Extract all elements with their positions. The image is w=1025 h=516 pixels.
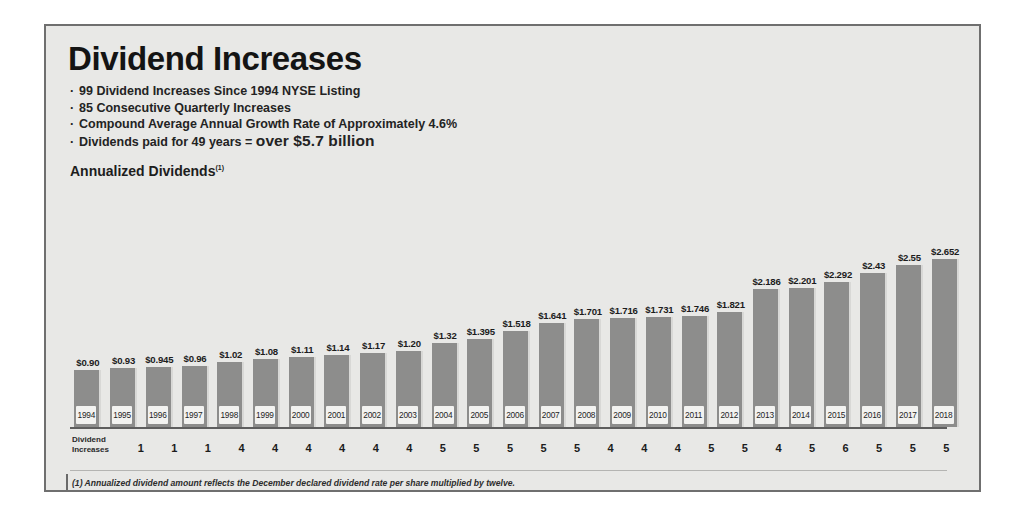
- bar-column: $2.432016: [856, 212, 892, 427]
- bar: 2002: [360, 353, 387, 427]
- bar: 2011: [682, 316, 709, 427]
- bar-value-label: $1.08: [255, 346, 278, 357]
- dividend-increase-value: 4: [627, 442, 661, 454]
- dividend-increase-value: 5: [896, 442, 930, 454]
- bar-year-label: 2007: [541, 406, 561, 424]
- bar-column: $1.6412007: [534, 212, 570, 427]
- bar-column: $1.322004: [427, 212, 463, 427]
- bar-column: $1.202003: [391, 212, 427, 427]
- chart-section-label-text: Annualized Dividends: [70, 163, 215, 179]
- list-item: ·Compound Average Annual Growth Rate of …: [70, 116, 965, 133]
- bar-column: $2.552017: [892, 212, 928, 427]
- dividend-increase-value: 4: [393, 442, 427, 454]
- bullet-dot: ·: [70, 116, 79, 133]
- dividend-increase-value: 5: [493, 442, 527, 454]
- bar-value-label: $1.716: [610, 305, 638, 316]
- bar: 1996: [146, 367, 173, 427]
- dividend-increase-value: 4: [359, 442, 393, 454]
- bar-column: $1.7162009: [606, 212, 642, 427]
- bar-value-label: $1.02: [219, 349, 242, 360]
- bar-year-label: 2018: [934, 406, 954, 424]
- bar: 1997: [182, 366, 209, 427]
- dividend-increase-value: 5: [795, 442, 829, 454]
- bar-value-label: $2.186: [752, 276, 780, 287]
- bar-column: $1.7012008: [570, 212, 606, 427]
- dividend-increases-row: Dividend Increases 111444444555554445545…: [70, 434, 963, 462]
- bullet-text: Dividends paid for 49 years =: [79, 135, 256, 149]
- bar-year-label: 2005: [469, 406, 489, 424]
- bar: 2009: [610, 318, 637, 427]
- bar: 2018: [932, 259, 959, 427]
- footnote-text: (1) Annualized dividend amount reflects …: [72, 478, 955, 488]
- bar-column: $1.5182006: [499, 212, 535, 427]
- bar-value-label: $1.746: [681, 303, 709, 314]
- bar-value-label: $1.32: [434, 330, 457, 341]
- dividend-increase-value: 5: [560, 442, 594, 454]
- bar-column: $2.1862013: [749, 212, 785, 427]
- bar-year-label: 2011: [684, 406, 704, 424]
- dividend-increase-value: 5: [460, 442, 494, 454]
- bar-value-label: $1.17: [362, 340, 385, 351]
- bar-column: $0.901994: [70, 212, 106, 427]
- dividend-increase-value: 1: [158, 442, 192, 454]
- bar-value-label: $1.20: [398, 338, 421, 349]
- dividend-increase-value: 4: [661, 442, 695, 454]
- bar-column: $1.7462011: [677, 212, 713, 427]
- bar: 2013: [753, 289, 780, 427]
- bar-year-label: 1999: [255, 406, 275, 424]
- bar-group: $0.901994$0.931995$0.9451996$0.961997$1.…: [70, 212, 963, 427]
- dividend-increase-value: 6: [829, 442, 863, 454]
- bar-value-label: $2.201: [788, 275, 816, 286]
- list-item: ·Dividends paid for 49 years = over $5.7…: [70, 133, 965, 151]
- bar-column: $0.931995: [106, 212, 142, 427]
- bar: 2001: [324, 355, 351, 427]
- bar: 2014: [789, 288, 816, 427]
- bullet-dot: ·: [70, 83, 79, 100]
- bar-value-label: $2.292: [824, 269, 852, 280]
- bar-year-label: 1997: [184, 406, 204, 424]
- bar-value-label: $2.55: [898, 252, 921, 263]
- bar: 2006: [503, 331, 530, 427]
- bar-value-label: $0.93: [112, 355, 135, 366]
- bar-year-label: 2012: [719, 406, 739, 424]
- bar-value-label: $1.14: [326, 342, 349, 353]
- bar-value-label: $2.652: [931, 246, 959, 257]
- dividend-increase-value: 4: [594, 442, 628, 454]
- bar-value-label: $1.821: [717, 299, 745, 310]
- bar: 2017: [896, 265, 923, 427]
- bar-value-label: $0.96: [184, 353, 207, 364]
- bar-year-label: 2015: [826, 406, 846, 424]
- bar: 2008: [574, 319, 601, 427]
- bar: 1999: [253, 359, 280, 427]
- bar: 1998: [217, 362, 244, 427]
- dividend-increase-value: 4: [325, 442, 359, 454]
- bar-year-label: 2000: [291, 406, 311, 424]
- bullet-text: Compound Average Annual Growth Rate of A…: [79, 117, 457, 131]
- bar-column: $1.081999: [249, 212, 285, 427]
- bar-value-label: $0.90: [76, 357, 99, 368]
- bar-year-label: 2003: [398, 406, 418, 424]
- bar-column: $1.8212012: [713, 212, 749, 427]
- bar-column: $0.9451996: [141, 212, 177, 427]
- dividend-increase-value: 4: [225, 442, 259, 454]
- bar-year-label: 2009: [612, 406, 632, 424]
- bar-column: $1.112000: [284, 212, 320, 427]
- bar-column: $2.6522018: [927, 212, 963, 427]
- list-item: ·85 Consecutive Quarterly Increases: [70, 100, 965, 117]
- bar: 1995: [110, 368, 137, 427]
- dividend-increases-label-line1: Dividend: [72, 435, 126, 445]
- dividend-increase-value: 4: [762, 442, 796, 454]
- bar-year-label: 2004: [434, 406, 454, 424]
- bar: 2012: [717, 312, 744, 427]
- bar-year-label: 1994: [76, 406, 96, 424]
- bar-value-label: $2.43: [862, 260, 885, 271]
- bullet-text: 99 Dividend Increases Since 1994 NYSE Li…: [79, 84, 360, 98]
- bar-column: $1.172002: [356, 212, 392, 427]
- dividend-increase-value: 5: [930, 442, 964, 454]
- bar-year-label: 2017: [898, 406, 918, 424]
- bar: 2010: [646, 317, 673, 427]
- bullet-emphasis: over $5.7 billion: [256, 132, 375, 149]
- bar: 2015: [824, 282, 851, 427]
- bar-year-label: 1998: [219, 406, 239, 424]
- bar-chart: $0.901994$0.931995$0.9451996$0.961997$1.…: [70, 212, 963, 427]
